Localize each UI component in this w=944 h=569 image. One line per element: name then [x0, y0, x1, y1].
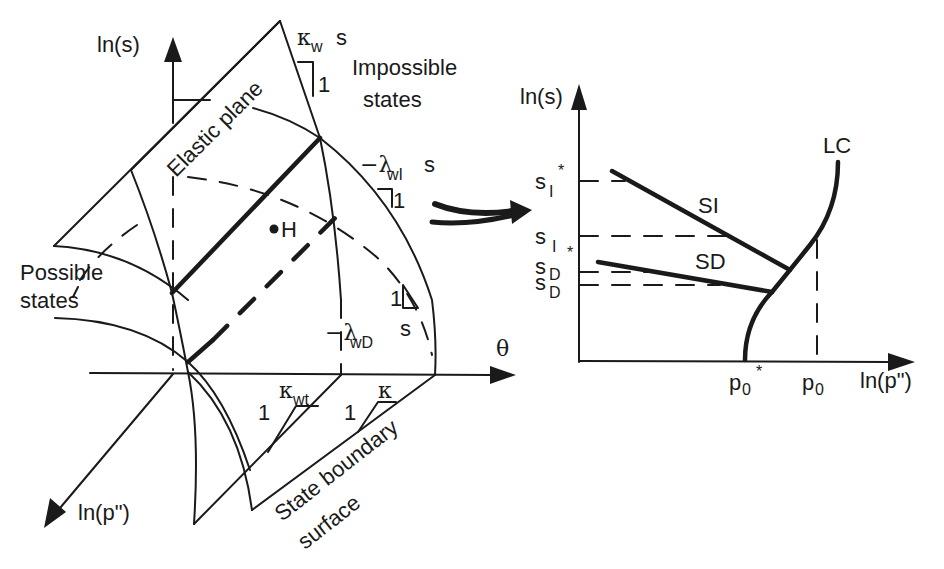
svg-text:I: I: [549, 183, 553, 200]
svg-text:1: 1: [393, 188, 405, 213]
svg-text:p: p: [729, 370, 741, 395]
svg-text:s: s: [336, 25, 347, 50]
svg-text:1: 1: [318, 72, 330, 97]
y-tick-si: s I: [535, 224, 556, 255]
svg-text:I: I: [552, 238, 556, 255]
left-3d-panel: ln(s) θ ln(p") Elastic plane: [20, 21, 516, 554]
sd-label: SD: [695, 249, 726, 274]
kappa-wt-slope: κ wt 1: [258, 378, 318, 452]
possible-states-surface: [54, 21, 280, 362]
svg-text:s: s: [400, 316, 411, 341]
ln-s-axis-label-2d: ln(s): [520, 84, 563, 109]
svg-text:κ: κ: [378, 378, 392, 403]
svg-text:0: 0: [815, 381, 824, 398]
theta-axis: θ: [90, 336, 516, 384]
arrow-right-icon: [490, 366, 516, 384]
kappa-w-slope: κ w s 1: [297, 25, 347, 97]
transition-arrow-icon: [432, 200, 532, 224]
x-tick-p0-star: p 0 *: [729, 363, 762, 398]
arrow-down-left-icon: [44, 498, 66, 528]
thick-dashed-line: [213, 218, 335, 340]
point-h-label: H: [281, 217, 297, 242]
svg-text:D: D: [549, 284, 561, 301]
svg-text:0: 0: [742, 381, 751, 398]
svg-text:1: 1: [258, 400, 270, 425]
svg-text:*: *: [756, 363, 762, 380]
svg-text:s: s: [535, 270, 546, 295]
svg-text:κ: κ: [297, 25, 311, 50]
x-tick-p0: p 0: [802, 370, 824, 398]
svg-text:s: s: [424, 152, 435, 177]
ln-p-axis-label-2d: ln(p"): [860, 368, 912, 393]
impossible-states-label-1: Impossible: [352, 55, 457, 80]
thick-yield-line-lower-stub: [188, 340, 213, 362]
elastic-plane-label: Elastic plane: [162, 76, 268, 182]
svg-text:wt: wt: [292, 391, 310, 408]
svg-text:wD: wD: [349, 334, 373, 351]
impossible-states-label-2: states: [363, 87, 422, 112]
theta-axis-label: θ: [496, 336, 509, 361]
svg-text:wI: wI: [386, 166, 403, 183]
svg-text:w: w: [310, 38, 323, 55]
possible-states-label-1: Possible: [20, 260, 103, 285]
lambda-wd-slope: −λ wD s 1: [325, 285, 418, 351]
svg-text:1: 1: [344, 400, 356, 425]
ln-p-axis-3d: ln(p"): [44, 374, 173, 528]
point-h-marker: [270, 225, 279, 234]
svg-text:p: p: [802, 370, 814, 395]
possible-states-label-2: states: [20, 288, 79, 313]
svg-text:s: s: [535, 169, 546, 194]
sd-curve: [598, 262, 772, 292]
ln-p-axis-label-3d: ln(p"): [78, 500, 130, 525]
lambda-wi-slope: −λ wI s 1: [360, 152, 435, 213]
right-2d-panel: ln(s) ln(p") s I * s I s D *: [520, 84, 915, 398]
svg-text:s: s: [535, 224, 546, 249]
lc-label: LC: [823, 133, 851, 158]
ln-s-axis-label: ln(s): [97, 32, 140, 57]
svg-text:*: *: [558, 162, 564, 179]
ln-s-axis-3d: ln(s): [97, 32, 182, 123]
svg-text:1: 1: [390, 286, 402, 311]
elastic-plane: Elastic plane: [131, 21, 280, 372]
arrow-up-icon: [571, 84, 587, 110]
elastic-plane-diagram: ln(s) θ ln(p") Elastic plane: [0, 0, 944, 569]
arrow-up-icon: [164, 37, 182, 62]
si-label: SI: [698, 193, 719, 218]
svg-text:D: D: [549, 266, 561, 283]
y-tick-si-star: s I *: [535, 162, 564, 200]
lc-curve: [745, 162, 838, 360]
svg-text:κ: κ: [279, 378, 293, 403]
svg-text:*: *: [567, 244, 573, 261]
ln-s-axis-2d: ln(s): [520, 84, 587, 362]
